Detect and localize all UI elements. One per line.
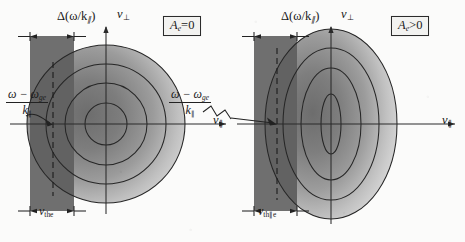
panel-anisotropic: Δ(ω/k∥) v⊥ v∥ Ae>0 ω − ωge k∥ vth∥e (233, 0, 465, 242)
resonance-fraction-right: ω − ωge k∥ (169, 88, 211, 118)
velocity-space-figure: Δ(ω/k∥) v⊥ v∥ Ae=0 ω − ωge k∥ vthe (0, 0, 465, 242)
resonance-fraction-left: ω − ωge k∥ (6, 88, 48, 118)
panel-isotropic: Δ(ω/k∥) v⊥ v∥ Ae=0 ω − ωge k∥ vthe (0, 0, 232, 242)
axis-label-vpar-right: v∥ (442, 113, 452, 128)
anisotropy-badge-left: Ae=0 (163, 16, 201, 36)
contour-plot-left (0, 0, 232, 242)
band-width-label-right: Δ(ω/k∥) (281, 9, 319, 24)
resonance-denominator-left: k∥ (6, 102, 48, 117)
anisotropy-badge-right: Ae>0 (391, 16, 429, 36)
axis-y-arrowhead-left (103, 26, 108, 33)
thermal-speed-label-right: vth∥e (258, 204, 276, 219)
thermal-speed-label-left: vthe (39, 204, 53, 219)
resonance-numerator-left: ω − ωge (6, 88, 48, 102)
axis-label-vperp-left: v⊥ (117, 7, 130, 22)
axis-label-vpar-left: v∥ (213, 113, 223, 128)
resonance-denominator-right: k∥ (169, 102, 211, 117)
band-width-label-left: Δ(ω/k∥) (57, 9, 95, 24)
resonance-numerator-right: ω − ωge (169, 88, 211, 102)
axis-label-vperp-right: v⊥ (341, 7, 354, 22)
plot-area-left (0, 0, 232, 242)
